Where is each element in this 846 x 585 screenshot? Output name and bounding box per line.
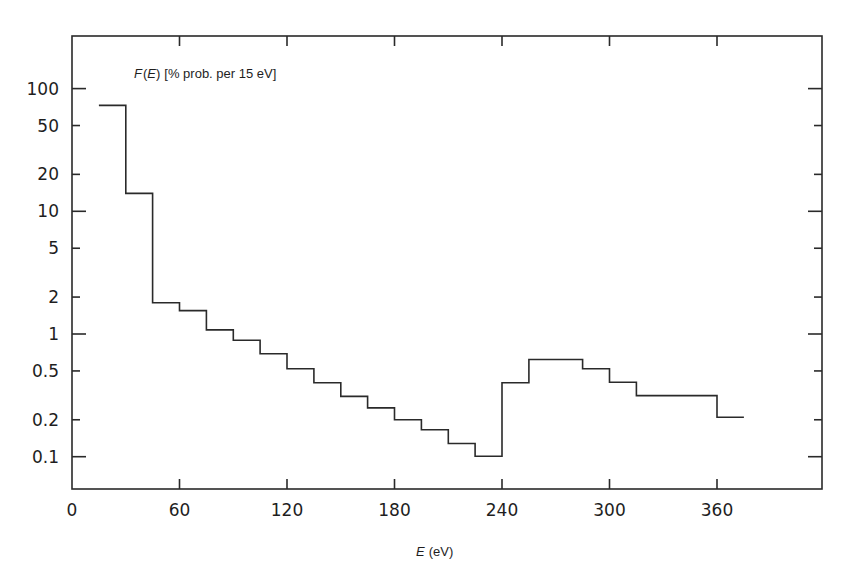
x-tick-label: 0 — [67, 500, 78, 520]
y-label-var: F — [134, 66, 143, 81]
y-axis-tick-labels: 0.10.20.5125102050100 — [27, 79, 59, 467]
y-tick-label: 20 — [37, 164, 59, 184]
x-tick-label: 240 — [486, 500, 518, 520]
x-axis-tick-labels: 060120180240300360 — [67, 500, 734, 520]
y-tick-label: 2 — [48, 287, 59, 307]
y-label-paren-close: ) — [156, 66, 160, 81]
y-label-units: [% prob. per 15 eV] — [164, 66, 276, 81]
y-tick-label: 0.5 — [32, 361, 59, 381]
y-label-arg: E — [147, 66, 156, 81]
x-tick-label: 180 — [378, 500, 410, 520]
x-tick-label: 360 — [701, 500, 733, 520]
x-label-var: E — [416, 544, 425, 559]
y-tick-label: 0.1 — [32, 447, 59, 467]
y-tick-label: 5 — [48, 238, 59, 258]
y-axis-ticks — [72, 89, 822, 457]
x-axis-label: E(eV) — [416, 544, 453, 559]
chart-canvas: 060120180240300360 0.10.20.5125102050100… — [0, 0, 846, 585]
x-tick-label: 300 — [593, 500, 625, 520]
y-tick-label: 50 — [37, 116, 59, 136]
y-tick-label: 10 — [37, 201, 59, 221]
x-tick-label: 120 — [271, 500, 303, 520]
y-axis-label: F(E)[% prob. per 15 eV] — [134, 66, 276, 81]
y-tick-label: 0.2 — [32, 410, 59, 430]
plot-frame — [72, 36, 822, 489]
x-label-units: (eV) — [429, 544, 454, 559]
histogram-step-line — [99, 105, 744, 456]
axes-box — [72, 36, 822, 489]
x-tick-label: 60 — [169, 500, 191, 520]
y-tick-label: 1 — [48, 324, 59, 344]
y-tick-label: 100 — [27, 79, 59, 99]
x-axis-ticks — [180, 36, 718, 489]
